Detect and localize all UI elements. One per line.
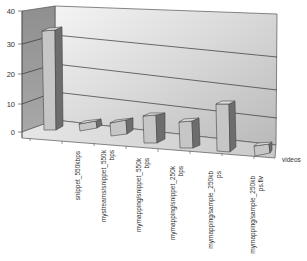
y-tick-10: 10: [7, 100, 15, 109]
chart-3d-bar: 0 10 20 30 40: [0, 0, 307, 261]
category-label: snippet_550kbps: [74, 150, 82, 200]
category-label-line2: ps.flv: [257, 175, 265, 191]
y-axis: 0 10 20 30 40: [7, 7, 22, 138]
category-labels: snippet_550kbps mystreams/snippet_550k b…: [74, 149, 265, 253]
bar: [216, 101, 236, 152]
depth-axis-label: videos: [282, 156, 302, 163]
category-label-line2: bps: [143, 157, 151, 168]
y-tick-40: 40: [7, 7, 15, 16]
category-label: mymapping/snippet_250k: [169, 165, 177, 240]
bar: [179, 118, 200, 148]
category-label: mymapping/snippet_550k: [135, 157, 143, 232]
y-tick-0: 0: [11, 128, 15, 137]
bar: [42, 27, 63, 130]
y-tick-20: 20: [7, 70, 15, 79]
bar: [143, 113, 165, 143]
category-label: mymapping/sample_250kb: [249, 176, 257, 254]
category-label-line2: ps: [215, 170, 223, 178]
category-label: mystreams/snippet_550k: [100, 149, 108, 222]
y-tick-30: 30: [7, 40, 15, 49]
category-label: mymapping/sample_250kb: [207, 171, 215, 249]
category-label-line2: bps: [177, 165, 185, 176]
category-label-line2: bps: [108, 149, 116, 160]
